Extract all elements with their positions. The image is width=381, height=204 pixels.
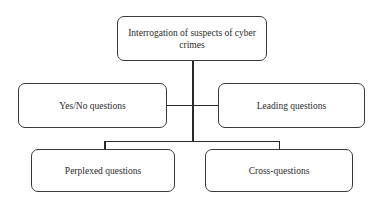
trunk-connector bbox=[192, 61, 194, 142]
node-cross-questions: Cross-questions bbox=[205, 149, 353, 192]
bottom-bracket-horizontal bbox=[104, 141, 280, 143]
node-label: Perplexed questions bbox=[65, 165, 141, 177]
node-perplexed-questions: Perplexed questions bbox=[31, 149, 175, 192]
node-label: Cross-questions bbox=[249, 165, 310, 177]
node-label: Leading questions bbox=[257, 100, 326, 112]
node-label: Yes/No questions bbox=[59, 100, 125, 112]
node-leading-questions: Leading questions bbox=[218, 83, 365, 128]
middle-horizontal-connector bbox=[167, 105, 218, 107]
root-node-interrogation: Interrogation of suspects of cyber crime… bbox=[117, 16, 267, 61]
root-node-label: Interrogation of suspects of cyber crime… bbox=[124, 27, 260, 51]
node-yes-no-questions: Yes/No questions bbox=[18, 83, 167, 128]
